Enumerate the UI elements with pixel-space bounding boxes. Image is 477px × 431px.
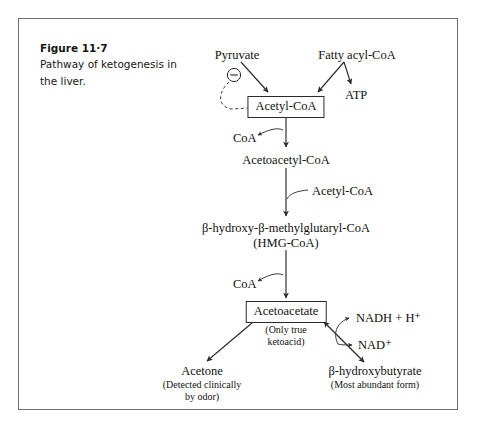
node-coa-1: CoA [233,131,257,146]
figure-caption: Figure 11·7 Pathway of ketogenesis in th… [40,40,190,89]
note-acetoacetate-line2: ketoacid) [267,336,304,348]
node-nad: NAD⁺ [358,338,392,353]
figure-number: Figure 11·7 [40,40,190,56]
node-pyruvate: Pyruvate [215,48,259,63]
node-hmg-coa-line1: β-hydroxy-β-methylglutaryl-CoA [202,221,370,236]
node-atp: ATP [345,88,367,103]
node-acetyl-coa-boxed: Acetyl-CoA [247,96,324,118]
node-acetone: Acetone [181,364,223,379]
node-hmg-coa-line2: (HMG-CoA) [253,236,318,251]
node-fatty-acyl-coa: Fatty acyl-CoA [318,48,395,63]
note-acetone-line1: (Detected clinically [163,379,242,391]
note-acetoacetate-line1: (Only true [265,324,306,336]
node-acetoacetate-boxed: Acetoacetate [246,301,327,323]
note-beta-hydroxybutyrate: (Most abundant form) [331,379,419,391]
node-nadh: NADH + H⁺ [356,311,421,326]
figure-description: Pathway of ketogenesis in the liver. [40,56,190,89]
node-coa-2: CoA [233,277,257,292]
node-acetoacetyl-coa: Acetoacetyl-CoA [242,153,329,168]
note-acetone-line2: by odor) [185,391,219,403]
node-acetyl-coa-input: Acetyl-CoA [312,184,373,199]
node-beta-hydroxybutyrate: β-hydroxybutyrate [328,364,421,379]
